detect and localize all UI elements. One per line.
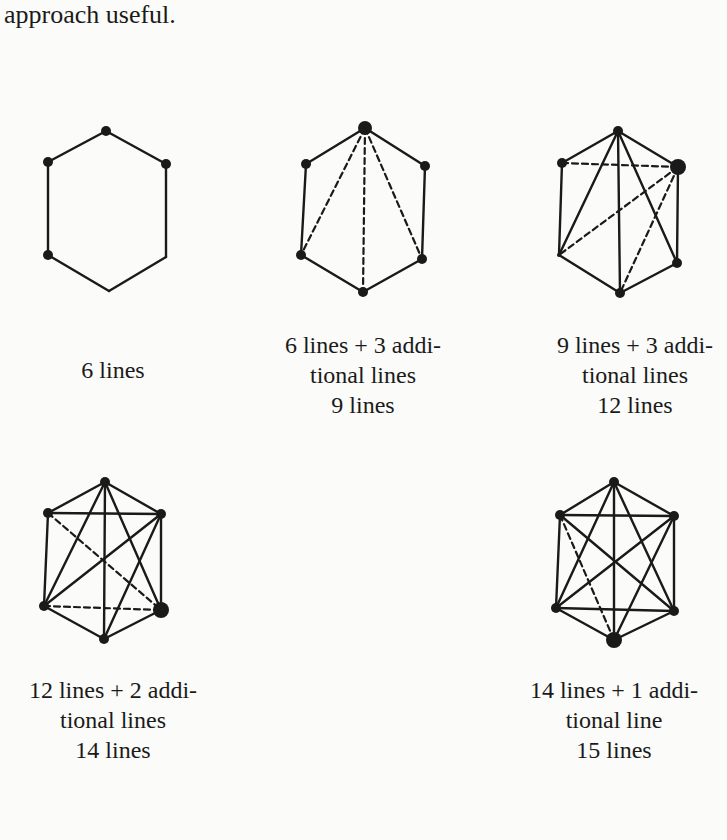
- solid-edge: [363, 259, 422, 292]
- vertex-dot: [417, 254, 427, 264]
- caption-line: 14 lines: [0, 735, 233, 765]
- caption-15-lines: 14 lines + 1 addi- tional line 15 lines: [494, 675, 727, 765]
- vertex-dot: [43, 250, 53, 260]
- vertex-dot: [161, 159, 171, 169]
- caption-line: 9 lines: [243, 390, 483, 420]
- solid-edge: [301, 255, 363, 292]
- vertex-dot: [670, 159, 686, 175]
- caption-line: 14 lines + 1 addi-: [494, 675, 727, 705]
- solid-edge: [44, 482, 105, 606]
- solid-edge: [109, 257, 166, 291]
- solid-edge: [48, 255, 109, 291]
- solid-edge: [560, 515, 674, 516]
- solid-edge: [559, 255, 620, 293]
- caption-line: 6 lines: [0, 355, 233, 385]
- dashed-edge: [620, 167, 678, 293]
- graph-drawing: [500, 440, 727, 660]
- vertex-dot: [153, 602, 169, 618]
- solid-edge: [105, 482, 161, 610]
- dashed-edge: [562, 163, 678, 167]
- solid-edge: [556, 608, 614, 640]
- caption-6-lines: 6 lines: [0, 355, 233, 385]
- graph-drawing: [20, 100, 220, 320]
- caption-line: tional lines: [243, 360, 483, 390]
- caption-line: tional lines: [0, 705, 233, 735]
- vertex-dot: [43, 157, 53, 167]
- solid-edge: [556, 608, 674, 611]
- graph-drawing: [270, 100, 470, 320]
- caption-line: 6 lines + 3 addi-: [243, 330, 483, 360]
- solid-edge: [48, 131, 106, 162]
- solid-edge: [48, 513, 161, 514]
- vertex-dot: [551, 603, 561, 613]
- vertex-dot: [557, 158, 567, 168]
- solid-edge: [44, 606, 104, 639]
- dashed-edge: [363, 128, 365, 292]
- solid-edge: [614, 516, 674, 640]
- solid-edge: [620, 263, 677, 293]
- vertex-dot: [99, 634, 109, 644]
- solid-edge: [677, 167, 678, 263]
- caption-line: 15 lines: [494, 735, 727, 765]
- vertex-dot: [669, 606, 679, 616]
- solid-edge: [422, 166, 425, 259]
- caption-12-lines: 9 lines + 3 addi- tional lines 12 lines: [515, 330, 727, 420]
- caption-line: 12 lines: [515, 390, 727, 420]
- caption-line: 9 lines + 3 addi-: [515, 330, 727, 360]
- solid-edge: [105, 482, 161, 514]
- vertex-dot: [557, 253, 561, 257]
- vertex-dot: [100, 477, 110, 487]
- solid-edge: [614, 611, 674, 640]
- vertex-dot: [156, 509, 166, 519]
- vertex-dot: [358, 121, 372, 135]
- vertex-dot: [101, 126, 111, 136]
- vertex-dot: [420, 161, 430, 171]
- dashed-edge: [560, 515, 614, 640]
- graph-drawing: [0, 440, 220, 660]
- body-text-fragment: approach useful.: [4, 0, 176, 30]
- solid-edge: [104, 610, 161, 639]
- solid-edge: [106, 131, 166, 164]
- caption-9-lines: 6 lines + 3 addi- tional lines 9 lines: [243, 330, 483, 420]
- vertex-dot: [669, 511, 679, 521]
- caption-line: tional line: [494, 705, 727, 735]
- vertex-dot: [606, 632, 622, 648]
- vertex-dot: [613, 126, 623, 136]
- vertex-dot: [615, 288, 625, 298]
- dashed-edge: [365, 128, 422, 259]
- solid-edge: [559, 163, 562, 255]
- vertex-dot: [609, 477, 619, 487]
- vertex-dot: [39, 601, 49, 611]
- solid-edge: [301, 164, 306, 255]
- solid-edge: [618, 131, 677, 263]
- solid-edge: [44, 513, 48, 606]
- caption-14-lines: 12 lines + 2 addi- tional lines 14 lines: [0, 675, 233, 765]
- vertex-dot: [301, 159, 311, 169]
- dashed-edge: [44, 606, 161, 610]
- vertex-dot: [672, 258, 682, 268]
- solid-edge: [614, 482, 674, 611]
- caption-line: tional lines: [515, 360, 727, 390]
- graph-drawing: [530, 100, 727, 320]
- vertex-dot: [43, 508, 53, 518]
- vertex-dot: [358, 287, 368, 297]
- solid-edge: [556, 515, 560, 608]
- vertex-dot: [296, 250, 306, 260]
- solid-edge: [104, 514, 161, 639]
- caption-line: 12 lines + 2 addi-: [0, 675, 233, 705]
- vertex-dot: [555, 510, 565, 520]
- solid-edge: [559, 131, 618, 255]
